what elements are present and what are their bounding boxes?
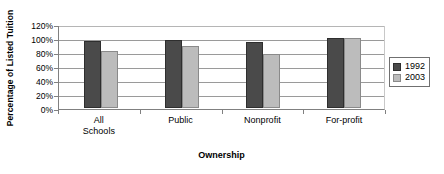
- bar-2003-all-schools: [101, 51, 118, 108]
- bar-group: [222, 26, 303, 108]
- y-axis-tick-mark: [54, 110, 58, 111]
- y-axis-tick-mark: [54, 68, 58, 69]
- plot-area: [58, 26, 385, 110]
- bars-layer: [60, 26, 384, 108]
- x-axis-tick-mark: [222, 110, 223, 114]
- x-axis-title: Ownership: [58, 150, 385, 160]
- legend-entry-1992: 1992: [393, 61, 425, 72]
- y-axis-tick-label: 60%: [36, 64, 53, 73]
- y-axis-tick-labels: 120%100%80%60%40%20%0%: [20, 26, 56, 110]
- x-axis-tick-mark: [303, 110, 304, 114]
- legend-label: 2003: [405, 72, 425, 83]
- x-axis-tick-marks: [58, 110, 385, 114]
- x-axis-category-label: For-profit: [303, 115, 385, 143]
- y-axis-tick-label: 80%: [36, 50, 53, 59]
- legend-label: 1992: [405, 61, 425, 72]
- x-axis-category-label: Public: [140, 115, 222, 143]
- y-axis-tick-mark: [54, 96, 58, 97]
- bar-1992-all-schools: [84, 41, 101, 108]
- bar-1992-public: [165, 40, 182, 108]
- x-axis-category-label: All Schools: [58, 115, 140, 143]
- bar-1992-nonprofit: [246, 42, 263, 108]
- bar-2003-for-profit: [344, 38, 361, 108]
- y-axis-tick-mark: [54, 54, 58, 55]
- y-axis-tick-mark: [54, 82, 58, 83]
- bar-2003-nonprofit: [263, 54, 280, 108]
- bar-group: [60, 26, 141, 108]
- y-axis-tick-label: 100%: [31, 36, 53, 45]
- x-axis-tick-mark: [385, 110, 386, 114]
- x-axis-category-labels: All SchoolsPublicNonprofitFor-profit: [58, 115, 385, 143]
- bar-chart: Percentage of Listed Tuition 120%100%80%…: [0, 0, 444, 174]
- y-axis-title: Percentage of Listed Tuition: [0, 0, 20, 135]
- y-axis-title-text: Percentage of Listed Tuition: [5, 9, 15, 125]
- x-axis-tick-mark: [140, 110, 141, 114]
- y-axis-tick-label: 40%: [36, 78, 53, 87]
- bar-group: [141, 26, 222, 108]
- legend-swatch-icon: [393, 63, 401, 71]
- legend-swatch-icon: [393, 74, 401, 82]
- x-axis-category-label: Nonprofit: [222, 115, 304, 143]
- legend-entry-2003: 2003: [393, 72, 425, 83]
- x-axis-tick-mark: [58, 110, 59, 114]
- y-axis-tick-label: 20%: [36, 92, 53, 101]
- chart-legend: 19922003: [389, 57, 430, 87]
- bar-1992-for-profit: [327, 38, 344, 108]
- y-axis-tick-label: 0%: [41, 106, 53, 115]
- y-axis-tick-mark: [54, 40, 58, 41]
- bar-2003-public: [182, 46, 199, 108]
- y-axis-tick-mark: [54, 26, 58, 27]
- bar-group: [303, 26, 384, 108]
- y-axis-tick-label: 120%: [31, 22, 53, 31]
